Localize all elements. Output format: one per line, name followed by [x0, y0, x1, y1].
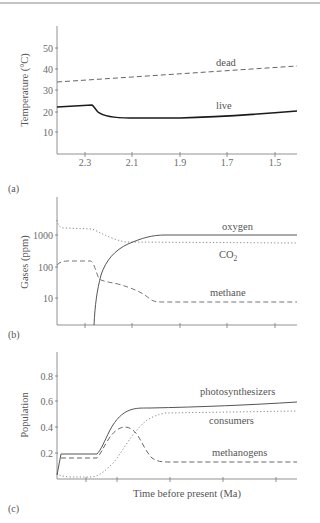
- co2-label: CO2: [219, 249, 238, 263]
- panel-a-temperature-chart: 50 40 30 20 10 2.3 2.1 1.9 1.7 1.5 Tempe…: [8, 26, 297, 195]
- oxygen-label: oxygen: [222, 221, 254, 232]
- x-tick-label: 2.1: [126, 157, 139, 168]
- live-label: live: [216, 100, 232, 111]
- x-ticks: [86, 477, 276, 482]
- y-ticks: [55, 235, 58, 298]
- panel-label-c: (c): [8, 503, 19, 515]
- y-ticks: [55, 376, 58, 453]
- y-tick-label: 10: [43, 127, 53, 138]
- y-ticks: [55, 48, 58, 132]
- y-axis-label: Temperature (°C): [19, 53, 31, 127]
- x-tick-label: 1.7: [221, 157, 234, 168]
- oxygen-line: [94, 235, 297, 325]
- y-tick-label: 30: [43, 85, 53, 96]
- y-tick-label: 100: [38, 262, 53, 273]
- y-tick-label: 0.2: [41, 448, 54, 459]
- y-tick-label: 50: [43, 43, 53, 54]
- methane-label: methane: [210, 287, 246, 298]
- y-axis-label: Population: [19, 392, 30, 438]
- panel-label-a: (a): [8, 183, 19, 195]
- consumers-label: consumers: [209, 415, 254, 426]
- y-tick-label: 40: [43, 64, 53, 75]
- methane-line: [57, 261, 297, 302]
- y-tick-label: 1000: [33, 230, 53, 241]
- panel-c-population-chart: 0.8 0.6 0.4 0.2 Population Time before p…: [8, 352, 297, 515]
- consumers-line: [57, 411, 297, 477]
- x-ticks: [85, 323, 275, 328]
- dead-label: dead: [216, 57, 237, 68]
- y-tick-label: 10: [43, 293, 53, 304]
- x-axis-label: Time before present (Ma): [133, 488, 241, 500]
- dead-temperature-line: [57, 66, 297, 82]
- figure: 50 40 30 20 10 2.3 2.1 1.9 1.7 1.5 Tempe…: [0, 0, 320, 523]
- y-tick-label: 0.4: [41, 422, 54, 433]
- y-tick-label: 0.6: [41, 396, 54, 407]
- panel-label-b: (b): [8, 329, 20, 341]
- co2-line: [57, 220, 297, 243]
- y-tick-label: 20: [43, 107, 53, 118]
- panel-b-gases-chart: 1000 100 10 Gases (ppm) oxygen CO2 metha…: [8, 197, 297, 341]
- photosynthesizers-label: photosynthesizers: [200, 386, 275, 397]
- live-temperature-line: [57, 105, 297, 118]
- y-tick-label: 0.8: [41, 371, 54, 382]
- x-tick-label: 1.9: [174, 157, 187, 168]
- x-tick-label: 1.5: [269, 157, 282, 168]
- x-tick-label: 2.3: [79, 157, 92, 168]
- photosynthesizers-line: [57, 402, 297, 475]
- methanogens-label: methanogens: [212, 447, 267, 458]
- y-axis-label: Gases (ppm): [19, 235, 31, 289]
